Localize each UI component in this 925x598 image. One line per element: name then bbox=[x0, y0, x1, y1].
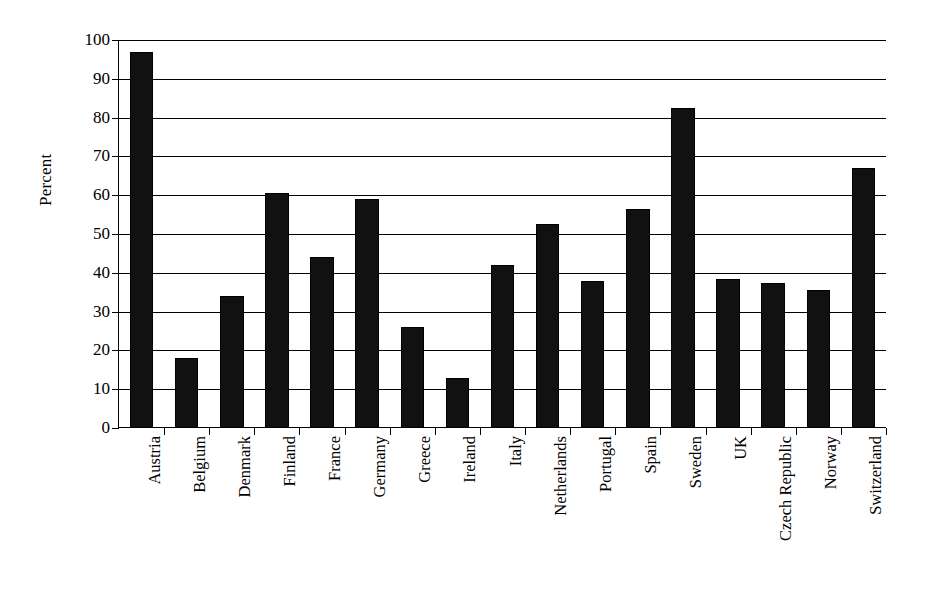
x-axis-category-label: Greece bbox=[417, 436, 433, 483]
y-axis-tick-label: 80 bbox=[93, 109, 110, 126]
x-axis-tick-mark bbox=[299, 428, 300, 435]
x-axis-tick-mark bbox=[841, 428, 842, 435]
x-axis-category-label: Ireland bbox=[462, 436, 478, 483]
x-axis-tick-mark bbox=[480, 428, 481, 435]
y-axis-tick-labels: 1009080706050403020100 bbox=[70, 40, 118, 428]
bar bbox=[446, 378, 469, 428]
y-axis-tick-label: 30 bbox=[93, 303, 110, 320]
bar bbox=[536, 224, 559, 428]
bar bbox=[355, 199, 378, 428]
x-axis-tick-mark bbox=[706, 428, 707, 435]
x-axis-category-label: Portugal bbox=[598, 436, 614, 492]
bar bbox=[175, 358, 198, 428]
x-axis-category-label: Spain bbox=[643, 436, 659, 474]
bar bbox=[807, 290, 830, 428]
bar bbox=[626, 209, 649, 428]
y-axis-tick-mark bbox=[112, 428, 119, 429]
y-axis-tick-mark bbox=[112, 273, 119, 274]
x-axis-tick-mark bbox=[525, 428, 526, 435]
bar bbox=[265, 193, 288, 428]
bar bbox=[310, 257, 333, 428]
x-axis-tick-mark bbox=[164, 428, 165, 435]
x-axis-category-labels: AustriaBelgiumDenmarkFinlandFranceGerman… bbox=[118, 436, 885, 596]
y-axis-tick-label: 20 bbox=[93, 341, 110, 358]
bar bbox=[716, 279, 739, 428]
bar-chart: Percent 1009080706050403020100 AustriaBe… bbox=[0, 0, 925, 598]
y-axis-tick-label: 90 bbox=[93, 70, 110, 87]
x-axis-category-label: Germany bbox=[372, 436, 388, 497]
y-axis-tick-mark bbox=[112, 195, 119, 196]
bar bbox=[852, 168, 875, 428]
x-axis-category-label: Finland bbox=[282, 436, 298, 486]
bars-container bbox=[119, 40, 886, 428]
x-axis-category-label: Netherlands bbox=[553, 436, 569, 516]
x-axis-tick-mark bbox=[796, 428, 797, 435]
bar bbox=[491, 265, 514, 428]
y-axis-tick-label: 70 bbox=[93, 147, 110, 164]
bar bbox=[220, 296, 243, 428]
bar bbox=[581, 281, 604, 428]
y-axis-title: Percent bbox=[36, 76, 62, 206]
y-axis-tick-mark bbox=[112, 40, 119, 41]
y-axis-tick-mark bbox=[112, 118, 119, 119]
bar bbox=[130, 52, 153, 428]
y-axis-tick-mark bbox=[112, 156, 119, 157]
x-axis-category-label: Switzerland bbox=[868, 436, 884, 515]
x-axis-category-label: Belgium bbox=[192, 436, 208, 493]
x-axis-tick-mark bbox=[615, 428, 616, 435]
y-axis-tick-label: 0 bbox=[102, 419, 111, 436]
y-axis-tick-mark bbox=[112, 350, 119, 351]
y-axis-tick-label: 10 bbox=[93, 380, 110, 397]
bar bbox=[761, 283, 784, 429]
x-axis-tick-mark bbox=[751, 428, 752, 435]
x-axis-tick-mark bbox=[254, 428, 255, 435]
y-axis-tick-label: 40 bbox=[93, 264, 110, 281]
y-axis-tick-label: 60 bbox=[93, 186, 110, 203]
y-axis-tick-mark bbox=[112, 312, 119, 313]
x-axis-category-label: Norway bbox=[823, 436, 839, 489]
y-axis-tick-mark bbox=[112, 389, 119, 390]
y-axis-tick-label: 100 bbox=[85, 31, 111, 48]
x-axis-category-label: Sweden bbox=[688, 436, 704, 488]
x-axis-category-label: Italy bbox=[508, 436, 524, 466]
y-axis-tick-mark bbox=[112, 79, 119, 80]
x-axis-category-label: Denmark bbox=[237, 436, 253, 497]
x-axis-tick-mark bbox=[570, 428, 571, 435]
bar bbox=[401, 327, 424, 428]
x-axis-tick-mark bbox=[209, 428, 210, 435]
x-axis-tick-mark bbox=[660, 428, 661, 435]
bar bbox=[671, 108, 694, 428]
x-axis-tick-mark bbox=[435, 428, 436, 435]
x-axis-tick-mark bbox=[886, 428, 887, 435]
x-axis-category-label: France bbox=[327, 436, 343, 481]
plot-area bbox=[118, 40, 886, 428]
y-axis-tick-mark bbox=[112, 234, 119, 235]
x-axis-category-label: Czech Republic bbox=[778, 436, 794, 541]
x-axis-category-label: UK bbox=[733, 436, 749, 460]
x-axis-line bbox=[119, 427, 886, 428]
x-axis-tick-mark bbox=[390, 428, 391, 435]
y-axis-tick-label: 50 bbox=[93, 225, 110, 242]
x-axis-tick-mark bbox=[345, 428, 346, 435]
x-axis-category-label: Austria bbox=[147, 436, 163, 485]
